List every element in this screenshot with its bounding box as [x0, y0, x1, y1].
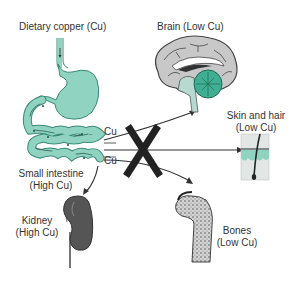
skin-hair-label-line2: (Low Cu)	[221, 122, 291, 134]
brain-label: Brain (Low Cu)	[157, 21, 224, 33]
blocked-x-icon	[126, 126, 160, 176]
cu-top-label: Cu	[104, 126, 117, 138]
dietary-copper-label: Dietary copper (Cu)	[19, 21, 106, 33]
skin-hair-label-line1: Skin and hair	[221, 110, 291, 122]
small-intestine-label: Small intestine (High Cu)	[12, 168, 90, 192]
stomach-icon	[38, 64, 98, 119]
skin-hair-label: Skin and hair (Low Cu)	[221, 110, 291, 134]
kidney-icon	[64, 196, 93, 268]
brain-icon	[156, 36, 237, 112]
bones-label-line2: (Low Cu)	[207, 237, 267, 249]
bones-label: Bones (Low Cu)	[207, 225, 267, 249]
blocked-transport-arrows	[104, 112, 238, 180]
kidney-label-line2: (High Cu)	[13, 227, 61, 239]
skin-hair-icon	[241, 134, 269, 180]
kidney-label: Kidney (High Cu)	[13, 215, 61, 239]
bones-label-line1: Bones	[207, 225, 267, 237]
cu-bottom-label: Cu	[104, 155, 117, 167]
kidney-label-line1: Kidney	[13, 215, 61, 227]
small-intestine-label-line1: Small intestine	[12, 168, 90, 180]
small-intestine-label-line2: (High Cu)	[12, 180, 90, 192]
